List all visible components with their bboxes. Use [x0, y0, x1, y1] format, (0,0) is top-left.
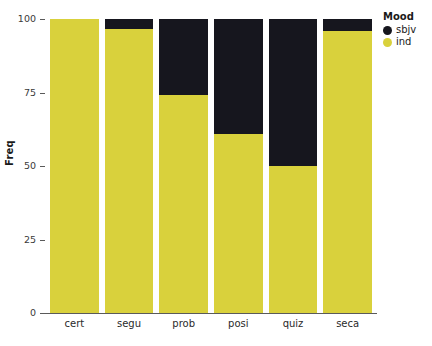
legend-swatch-ind-icon	[383, 38, 392, 47]
legend-item-ind[interactable]: ind	[383, 37, 432, 47]
legend-item-sbjv[interactable]: sbjv	[383, 25, 432, 35]
bar-column-prob[interactable]	[159, 19, 208, 313]
y-tick-label: 50	[6, 161, 36, 171]
y-tick-mark	[40, 93, 45, 94]
legend-title: Mood	[383, 11, 432, 22]
bar-column-seca[interactable]	[323, 19, 372, 313]
y-tick-label: 100	[6, 14, 36, 24]
legend-entries: sbjvind	[383, 25, 432, 47]
bar-segment-ind[interactable]	[214, 134, 263, 313]
legend: Mood sbjvind	[383, 11, 432, 49]
y-tick-label: 0	[6, 308, 36, 318]
bar-segment-sbjv[interactable]	[105, 19, 154, 29]
y-tick-mark	[40, 240, 45, 241]
x-tick-label-prob: prob	[156, 319, 211, 329]
bar-segment-ind[interactable]	[105, 29, 154, 313]
bar-segment-sbjv[interactable]	[214, 19, 263, 134]
x-tick-label-cert: cert	[47, 319, 102, 329]
x-axis-line	[44, 313, 377, 314]
bar-column-segu[interactable]	[105, 19, 154, 313]
legend-label: ind	[396, 37, 411, 47]
bar-column-posi[interactable]	[214, 19, 263, 313]
bar-segment-sbjv[interactable]	[323, 19, 372, 31]
y-tick-label: 75	[6, 88, 36, 98]
legend-label: sbjv	[396, 25, 416, 35]
chart-figure: Freq 0255075100 certseguprobposiquizseca…	[0, 0, 432, 346]
legend-swatch-sbjv-icon	[383, 26, 392, 35]
x-tick-label-posi: posi	[211, 319, 266, 329]
y-tick-label: 25	[6, 235, 36, 245]
bar-segment-ind[interactable]	[323, 31, 372, 313]
y-tick-mark	[40, 166, 45, 167]
y-tick-mark	[40, 19, 45, 20]
bar-segment-ind[interactable]	[159, 95, 208, 313]
x-tick-label-seca: seca	[320, 319, 375, 329]
bar-column-cert[interactable]	[50, 19, 99, 313]
x-tick-label-segu: segu	[102, 319, 157, 329]
bar-segment-ind[interactable]	[269, 166, 318, 313]
bar-column-quiz[interactable]	[269, 19, 318, 313]
plot-area	[47, 19, 375, 313]
bar-segment-sbjv[interactable]	[269, 19, 318, 166]
x-tick-label-quiz: quiz	[266, 319, 321, 329]
bar-segment-ind[interactable]	[50, 19, 99, 313]
bar-segment-sbjv[interactable]	[159, 19, 208, 95]
